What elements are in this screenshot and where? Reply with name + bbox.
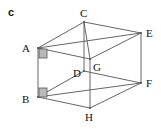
vertex-dot-group xyxy=(37,21,142,109)
vertex-dot-H xyxy=(89,107,91,109)
vertex-dot-A xyxy=(37,47,39,49)
vertex-dot-F xyxy=(140,82,142,84)
edge-BF xyxy=(38,83,141,97)
part-label-c: c xyxy=(8,7,14,18)
vertex-label-D: D xyxy=(73,68,81,79)
edge-BH xyxy=(38,97,90,108)
vertex-dot-D xyxy=(83,70,85,72)
vertex-label-E: E xyxy=(146,28,153,39)
edge-CE xyxy=(84,22,141,33)
vertex-dot-E xyxy=(140,32,142,34)
vertex-label-A: A xyxy=(22,43,30,54)
geometry-figure: c A B C D E F G H xyxy=(0,0,161,133)
edge-AC xyxy=(38,22,84,48)
vertex-dot-G xyxy=(89,58,91,60)
vertex-dot-B xyxy=(37,96,39,98)
right-angle-marker-B xyxy=(39,88,47,97)
vertex-dot-C xyxy=(83,21,85,23)
vertex-label-H: H xyxy=(85,112,93,123)
vertex-label-B: B xyxy=(22,94,29,105)
right-angle-marker-group xyxy=(39,49,47,97)
edge-group xyxy=(38,22,141,108)
vertex-label-C: C xyxy=(80,8,87,19)
right-angle-marker-A xyxy=(39,49,47,58)
vertex-label-F: F xyxy=(146,78,152,89)
vertex-label-G: G xyxy=(93,62,101,73)
